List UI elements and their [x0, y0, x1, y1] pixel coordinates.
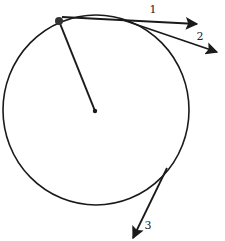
arrow-label-2: 2: [197, 30, 204, 43]
object-point: [55, 17, 63, 25]
radius-line: [59, 21, 95, 111]
center-point: [93, 109, 97, 113]
circular-motion-diagram: 123: [0, 0, 225, 241]
arrow-label-1: 1: [150, 3, 157, 16]
arrow-label-3: 3: [145, 219, 152, 232]
